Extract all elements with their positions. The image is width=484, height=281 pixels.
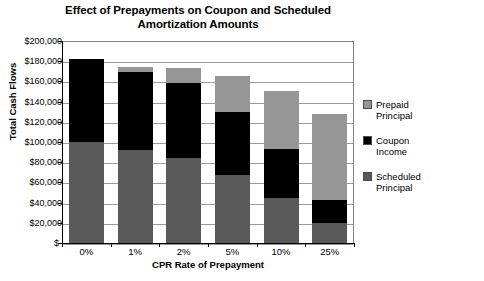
y-axis-tick-label: $140,000 (4, 97, 62, 106)
chart-container: Effect of Prepayments on Coupon and Sche… (0, 0, 484, 281)
bar-segment[interactable] (264, 198, 299, 243)
x-axis-tick-mark (159, 243, 160, 247)
bar-segment[interactable] (166, 83, 201, 158)
chart-title-line-2: Amortization Amounts (48, 17, 348, 31)
x-axis-tick-label: 1% (112, 246, 158, 257)
y-axis-tick-label: $100,000 (4, 138, 62, 147)
bar-segment[interactable] (215, 76, 250, 111)
x-axis-tick-label: 5% (209, 246, 255, 257)
bar-segment[interactable] (264, 91, 299, 150)
bar-segment[interactable] (69, 59, 104, 142)
y-axis-tick-label: $40,000 (4, 198, 62, 207)
bar-group (62, 41, 354, 243)
x-axis-tick-mark (62, 243, 63, 247)
bar-segment[interactable] (215, 175, 250, 243)
legend-item-label: Scheduled Principal (376, 171, 421, 193)
legend-item-label: Prepaid Principal (376, 99, 412, 121)
y-axis-tick-label: $80,000 (4, 158, 62, 167)
y-axis-tick-label: $160,000 (4, 77, 62, 86)
bar-segment[interactable] (312, 223, 347, 243)
bar-segment[interactable] (118, 150, 153, 243)
legend-item[interactable]: Scheduled Principal (363, 171, 481, 193)
x-axis-ticks: 0%1%2%5%10%25% (62, 246, 354, 260)
x-axis-tick-mark (354, 243, 355, 247)
y-axis-tick-label: $120,000 (4, 117, 62, 126)
bar-segment[interactable] (118, 72, 153, 150)
x-axis-tick-mark (257, 243, 258, 247)
legend-item[interactable]: Coupon Income (363, 135, 481, 157)
bar-stack[interactable] (118, 67, 153, 243)
y-axis: $200,000$180,000$160,000$140,000$120,000… (0, 41, 62, 243)
chart-title: Effect of Prepayments on Coupon and Sche… (48, 3, 348, 31)
x-axis-title: CPR Rate of Prepayment (62, 259, 354, 270)
bar-segment[interactable] (166, 158, 201, 243)
chart-title-line-1: Effect of Prepayments on Coupon and Sche… (48, 3, 348, 17)
y-axis-tick-label: $200,000 (4, 37, 62, 46)
legend-swatch-icon (363, 136, 372, 145)
y-axis-tick-label: $- (4, 239, 62, 248)
chart-legend: Prepaid PrincipalCoupon IncomeScheduled … (363, 99, 481, 207)
bar-stack[interactable] (312, 114, 347, 243)
y-axis-tick-label: $20,000 (4, 218, 62, 227)
bar-segment[interactable] (69, 142, 104, 243)
x-axis-tick-mark (305, 243, 306, 247)
x-axis-tick-mark (111, 243, 112, 247)
bar-segment[interactable] (312, 114, 347, 200)
bar-segment[interactable] (215, 112, 250, 176)
bar-stack[interactable] (166, 68, 201, 243)
x-axis-tick-mark (208, 243, 209, 247)
x-axis-tick-label: 25% (307, 246, 353, 257)
x-axis-tick-label: 0% (63, 246, 109, 257)
x-axis-tick-label: 2% (161, 246, 207, 257)
y-axis-tick-label: $180,000 (4, 57, 62, 66)
bar-segment[interactable] (312, 200, 347, 223)
bar-stack[interactable] (215, 76, 250, 243)
x-axis-tick-label: 10% (258, 246, 304, 257)
legend-swatch-icon (363, 100, 372, 109)
legend-item[interactable]: Prepaid Principal (363, 99, 481, 121)
legend-swatch-icon (363, 172, 372, 181)
legend-item-label: Coupon Income (376, 135, 409, 157)
bar-stack[interactable] (69, 59, 104, 243)
y-axis-tick-label: $60,000 (4, 178, 62, 187)
bar-segment[interactable] (264, 149, 299, 197)
bar-segment[interactable] (166, 68, 201, 83)
bar-stack[interactable] (264, 91, 299, 243)
